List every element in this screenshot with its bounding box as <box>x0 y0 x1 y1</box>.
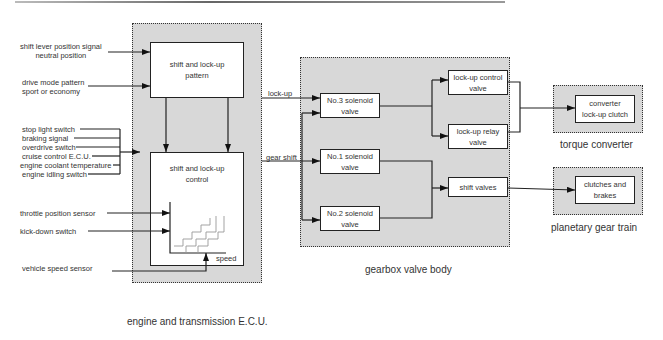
converter-clutch-label: converter lock-up clutch <box>582 98 628 120</box>
sol3-label: No.3 solenoid valve <box>327 95 373 117</box>
clutches-brakes-label: clutches and brakes <box>584 179 626 201</box>
ecu-caption: engine and transmission E.C.U. <box>127 316 268 327</box>
clutches-brakes-box: clutches and brakes <box>575 176 635 204</box>
gearbox-caption: gearbox valve body <box>365 264 452 275</box>
converter-clutch-box: converter lock-up clutch <box>575 95 635 123</box>
input-kickdown: kick-down switch <box>20 227 76 236</box>
torque-converter-caption: torque converter <box>560 139 633 150</box>
sol2-box: No.2 solenoid valve <box>320 206 380 231</box>
lockup-control-valve-box: lock-up control valve <box>448 70 508 95</box>
input-braking-signal: braking signal <box>22 134 68 143</box>
input-idling-switch: engine idling switch <box>22 170 87 179</box>
input-overdrive: overdrive switch <box>22 143 76 152</box>
input-coolant-temp: engine coolant temperature <box>20 161 111 170</box>
input-drive-mode: drive mode pattern sport or economy <box>22 78 85 96</box>
sol2-label: No.2 solenoid valve <box>327 208 373 230</box>
lockup-relay-valve-box: lock-up relay valve <box>448 124 508 149</box>
planetary-caption: planetary gear train <box>551 222 637 233</box>
input-cruise-control: cruise control E.C.U. <box>22 152 91 161</box>
shift-valves-box: shift valves <box>448 177 508 197</box>
input-stop-light: stop light switch <box>22 125 75 134</box>
sol3-box: No.3 solenoid valve <box>320 93 380 118</box>
shift-lockup-pattern-box: shift and lock-up pattern <box>150 42 244 98</box>
input-vehicle-speed: vehicle speed sensor <box>22 264 92 273</box>
sol1-label: No.1 solenoid valve <box>327 151 373 173</box>
speed-label: speed <box>216 254 236 263</box>
shift-valves-label: shift valves <box>459 182 496 193</box>
signal-gear-shift: gear shift <box>266 153 297 162</box>
input-shift-lever: shift lever position signal neutral posi… <box>20 42 102 60</box>
signal-lockup: lock-up <box>268 89 292 98</box>
shift-lockup-control-box: shift and lock-up control <box>150 152 244 266</box>
input-throttle: throttle position sensor <box>20 209 95 218</box>
control-box-label: shift and lock-up control <box>170 163 225 185</box>
pattern-box-label: shift and lock-up pattern <box>170 59 225 81</box>
sol1-box: No.1 solenoid valve <box>320 149 380 174</box>
top-rule <box>15 1 505 3</box>
lockup-control-label: lock-up control valve <box>454 72 503 94</box>
lockup-relay-label: lock-up relay valve <box>457 126 500 148</box>
